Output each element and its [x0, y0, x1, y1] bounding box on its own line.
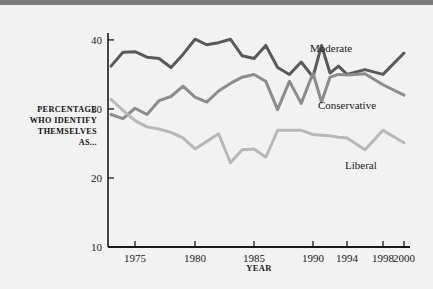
y-tick-label: 10 [91, 241, 103, 253]
series-inline-labels: ModerateConservativeLiberal [310, 42, 377, 171]
x-tick-label: 1990 [302, 252, 325, 264]
y-tick-marks [108, 40, 114, 247]
series-line-moderate [111, 39, 404, 77]
series-label-conservative: Conservative [318, 99, 376, 111]
x-tick-label: 1998 [372, 252, 395, 264]
y-tick-label: 40 [91, 34, 103, 46]
series-label-liberal: Liberal [345, 159, 377, 171]
series-label-moderate: Moderate [310, 42, 352, 54]
y-axis-title: PERCENTAGEWHO IDENTIFYTHEMSELVESAS... [30, 105, 97, 147]
line-chart-svg: 10203040 1975198019851990199419982000 PE… [0, 0, 433, 289]
chart-figure: 10203040 1975198019851990199419982000 PE… [0, 0, 433, 289]
series-line-conservative [111, 73, 404, 119]
y-axis-title-line: AS... [79, 138, 97, 147]
x-tick-label: 1994 [336, 252, 359, 264]
x-tick-label: 1980 [184, 252, 207, 264]
x-tick-label: 1975 [124, 252, 147, 264]
y-tick-label: 20 [91, 172, 103, 184]
x-tick-label: 2000 [393, 252, 416, 264]
y-axis-title-line: PERCENTAGE [37, 105, 97, 114]
y-axis-title-line: THEMSELVES [38, 127, 97, 136]
x-axis-title: YEAR [246, 263, 272, 273]
y-axis-title-line: WHO IDENTIFY [30, 116, 97, 125]
